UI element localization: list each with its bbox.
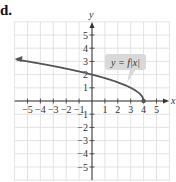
y-tick-label: 1 bbox=[83, 82, 88, 93]
x-tick-label: 3 bbox=[128, 104, 133, 115]
y-tick-label: −1 bbox=[77, 109, 88, 120]
function-label-callout: y = f|x| bbox=[105, 54, 146, 83]
x-tick-label: −5 bbox=[22, 104, 33, 115]
y-tick-label: −5 bbox=[77, 162, 88, 173]
x-axis-label: x bbox=[170, 95, 176, 106]
y-tick-label: −3 bbox=[77, 135, 88, 146]
x-tick-label: 4 bbox=[141, 104, 146, 115]
callout-pointer bbox=[127, 69, 136, 83]
y-tick-label: −2 bbox=[77, 122, 88, 133]
x-tick-label: 1 bbox=[102, 104, 107, 115]
x-axis-arrow-icon bbox=[163, 99, 169, 104]
x-tick-label: 5 bbox=[154, 104, 159, 115]
x-tick-label: −2 bbox=[61, 104, 72, 115]
y-tick-label: 4 bbox=[83, 43, 88, 54]
x-tick-label: 2 bbox=[115, 104, 120, 115]
part-label: d. bbox=[0, 2, 12, 19]
y-axis-label: y bbox=[88, 9, 94, 20]
plot-area: xy −5−4−3−2−112345−5−4−3−2−112345 y = f|… bbox=[0, 0, 176, 182]
y-tick-label: 3 bbox=[83, 56, 88, 67]
endpoint-dot bbox=[141, 99, 145, 103]
y-tick-label: −4 bbox=[77, 148, 88, 159]
y-axis-arrow-icon bbox=[90, 22, 95, 28]
graph-figure: d. xy −5−4−3−2−112345−5−4−3−2−112345 y =… bbox=[0, 0, 176, 182]
x-tick-label: −4 bbox=[35, 104, 46, 115]
y-tick-label: 2 bbox=[83, 69, 88, 80]
x-tick-label: −3 bbox=[48, 104, 59, 115]
y-tick-label: 5 bbox=[83, 30, 88, 41]
function-label: y = f|x| bbox=[110, 57, 140, 68]
